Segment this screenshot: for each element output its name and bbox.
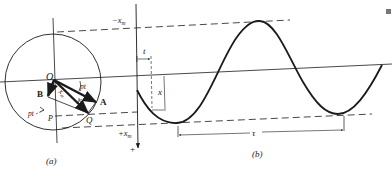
tau-arrow-right [262, 130, 343, 132]
label-time-t: t [143, 46, 146, 56]
label-axis-positive: + [130, 144, 135, 154]
caption-b: (b) [252, 149, 263, 159]
label-displacement-x: x [157, 87, 162, 97]
pt-leader-line [36, 110, 44, 114]
label-angle-pt-left: pt [27, 109, 35, 118]
dashed-line-p-level [55, 112, 137, 116]
t-dim-right [151, 56, 152, 108]
label-neg-xm: −xm [112, 15, 126, 26]
label-phase-phi: φ [79, 96, 83, 104]
horizontal-reference-line [0, 64, 392, 82]
angle-mark-pt-left [40, 107, 44, 112]
label-vector-a: A [100, 97, 107, 107]
dashed-line-pos-xm [62, 114, 372, 128]
caption-a: (a) [46, 156, 57, 166]
panel-b: t x τ −xm +xm + (b) [112, 4, 382, 159]
label-period-tau: τ [252, 128, 256, 138]
label-vector-b: B [37, 89, 43, 99]
label-angle-pt-top: pt [79, 82, 87, 91]
panel-a: O A B Q P pt pt xm φ (a) [0, 18, 392, 166]
label-pos-xm: +xm [118, 128, 132, 139]
harmonic-motion-diagram: O A B Q P pt pt xm φ (a) t x τ [0, 0, 392, 172]
label-origin-o: O [46, 71, 53, 82]
tau-arrow-left [179, 133, 250, 135]
margin-mark [386, 9, 391, 14]
label-point-q: Q [86, 115, 93, 125]
parallelogram-side-a [88, 102, 96, 113]
displacement-curve [137, 21, 382, 123]
vector-ob [48, 80, 54, 96]
label-point-p: P [47, 114, 53, 123]
x-dim-line [164, 76, 165, 109]
